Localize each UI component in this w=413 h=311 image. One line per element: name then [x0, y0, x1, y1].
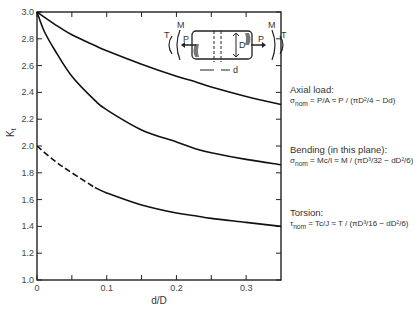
y-tick-label: 2.2 [21, 114, 34, 124]
bending-equation: = Mc/I ≈ M / (πD³/32 − dD²/6) [308, 156, 413, 165]
inset-label-d: d [233, 65, 238, 75]
y-tick-label: 2.4 [21, 87, 34, 97]
y-tick-label: 1.0 [21, 275, 34, 285]
x-tick-label: 0 [34, 283, 39, 293]
torsion-title: Torsion: [290, 208, 409, 218]
axial-load-title: Axial load: [290, 85, 395, 95]
moment-arc-left-icon [177, 30, 180, 60]
y-tick-label: 2.8 [21, 34, 34, 44]
x-tick-label: 0.2 [170, 283, 183, 293]
torsion-formula: τnom = Tc/J ≈ T / (πD³/16 − dD²/6) [290, 220, 409, 230]
y-tick-label: 1.6 [21, 195, 34, 205]
axial-equation: = P/A ≈ P / (πD²/4 − Dd) [308, 96, 396, 105]
torsion-curve-dashed [37, 146, 95, 188]
y-axis-label: Kt [5, 128, 17, 137]
inset-label-p-left: P [183, 34, 189, 44]
x-tick-label: 0.3 [240, 283, 253, 293]
inset-label-D: D [239, 40, 246, 50]
y-tick-label: 1.2 [21, 248, 34, 258]
bending-annotation: Bending (in this plane): σnom = Mc/I ≈ M… [290, 145, 413, 167]
y-tick-label: 3.0 [21, 7, 34, 17]
torsion-curve-solid [95, 188, 281, 227]
y-tick-label: 1.4 [21, 221, 34, 231]
nom-subscript: nom [295, 160, 308, 167]
bending-formula: σnom = Mc/I ≈ M / (πD³/32 − dD²/6) [290, 157, 413, 167]
axial-load-annotation: Axial load: σnom = P/A ≈ P / (πD²/4 − Dd… [290, 85, 395, 107]
inset-label-t-right: T [281, 30, 287, 40]
torsion-equation: = Tc/J ≈ T / (πD³/16 − dD²/6) [306, 219, 408, 228]
moment-arc-right-icon [272, 30, 275, 60]
bending-title: Bending (in this plane): [290, 145, 413, 155]
x-tick-label: 0.1 [100, 283, 113, 293]
nom-subscript: nom [295, 100, 308, 107]
x-axis-label: d/D [151, 295, 167, 306]
shaft-diagram: TMPDdPMT [164, 20, 287, 75]
y-tick-label: 2.0 [21, 141, 34, 151]
inset-label-t-left: T [164, 30, 170, 40]
inset-label-m-left: M [177, 20, 185, 30]
y-tick-label: 2.6 [21, 61, 34, 71]
inset-label-p-right: P [258, 34, 264, 44]
inset-label-m-right: M [268, 20, 276, 30]
torsion-annotation: Torsion: τnom = Tc/J ≈ T / (πD³/16 − dD²… [290, 208, 409, 230]
y-tick-label: 1.8 [21, 168, 34, 178]
axial-load-formula: σnom = P/A ≈ P / (πD²/4 − Dd) [290, 97, 395, 107]
nom-subscript: nom [293, 223, 306, 230]
